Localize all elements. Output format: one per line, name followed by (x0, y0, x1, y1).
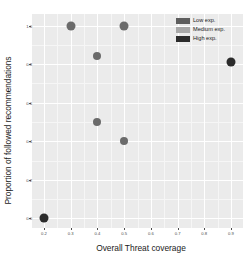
legend-label: Medium exp. (193, 27, 225, 33)
y-tick-mark (29, 218, 31, 219)
y-tick-mark (29, 180, 31, 181)
scatter-plot-figure: 0.00.20.40.60.81.0 0.20.30.40.50.60.70.8… (0, 0, 249, 261)
x-tick-label: 0.3 (61, 231, 81, 236)
legend-label: Low exp. (193, 18, 215, 24)
x-tick-mark (124, 228, 125, 230)
chart-legend: Low exp.Medium exp.High exp. (174, 14, 249, 45)
x-tick-label: 0.4 (87, 231, 107, 236)
x-tick-mark (204, 228, 205, 230)
x-tick-mark (151, 228, 152, 230)
x-tick-label: 0.5 (114, 231, 134, 236)
x-tick-mark (71, 228, 72, 230)
y-tick-mark (29, 64, 31, 65)
y-tick-mark (29, 26, 31, 27)
x-tick-label: 0.8 (194, 231, 214, 236)
x-tick-mark (231, 228, 232, 230)
x-tick-mark (178, 228, 179, 230)
y-tick-mark (29, 103, 31, 104)
y-axis-title: Proportion of followed recommendations (0, 0, 16, 261)
legend-item: Medium exp. (176, 25, 248, 34)
legend-color-swatch (176, 18, 190, 24)
y-tick-mark (29, 141, 31, 142)
legend-color-swatch (176, 27, 190, 33)
legend-label: High exp. (193, 36, 217, 42)
legend-item: High exp. (176, 34, 248, 43)
x-tick-label: 0.2 (34, 231, 54, 236)
x-tick-label: 0.9 (221, 231, 241, 236)
x-axis-title: Overall Threat coverage (37, 243, 245, 253)
x-tick-label: 0.7 (168, 231, 188, 236)
x-tick-label: 0.6 (141, 231, 161, 236)
legend-item: Low exp. (176, 16, 248, 25)
x-tick-mark (44, 228, 45, 230)
x-tick-mark (97, 228, 98, 230)
legend-color-swatch (176, 36, 190, 42)
